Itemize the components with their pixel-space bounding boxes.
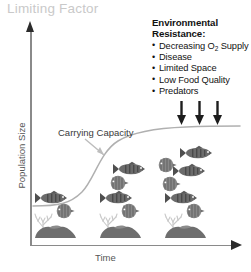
env-resistance-item: Low Food Quality	[152, 75, 251, 86]
reef-group-2	[100, 191, 141, 238]
carrying-capacity-label: Carrying Capacity	[58, 127, 134, 138]
x-axis-arrowhead-icon	[231, 240, 242, 250]
fish-upper-4	[163, 177, 181, 192]
fish-upper-3	[173, 164, 205, 176]
y-axis-label: Population Size	[16, 111, 27, 201]
x-axis-label: Time	[95, 252, 116, 263]
pressure-arrow-1	[177, 101, 186, 125]
pressure-arrow-2	[195, 101, 204, 125]
y-axis-line	[30, 30, 32, 246]
fish-upper-5	[113, 162, 145, 174]
page-title: Limiting Factor	[7, 1, 99, 16]
pressure-arrow-3	[213, 101, 222, 125]
fish-upper-2	[159, 158, 177, 173]
x-axis-line	[30, 245, 233, 247]
fish-upper-6	[111, 176, 129, 191]
subscript: 2	[215, 45, 219, 52]
limiting-factor-diagram: Limiting Factor Population Size Time Car…	[0, 0, 251, 272]
env-resistance-item: Limited Space	[152, 63, 251, 74]
env-resistance-item: Predators	[152, 86, 251, 97]
env-heading-line-1: Environmental	[152, 17, 218, 28]
env-heading-line-2: Resistance:	[152, 28, 205, 39]
reef-group-3	[165, 191, 206, 238]
environmental-resistance-list: Decreasing O2 SupplyDiseaseLimited Space…	[152, 41, 251, 97]
reef-group-1	[35, 191, 76, 238]
environmental-resistance-heading: Environmental Resistance:	[152, 17, 251, 40]
carrying-capacity-arrow-icon	[85, 139, 104, 155]
env-resistance-item: Disease	[152, 52, 251, 63]
environmental-resistance-callout: Environmental Resistance: Decreasing O2 …	[152, 17, 251, 97]
env-resistance-item: Decreasing O2 Supply	[152, 41, 251, 52]
fish-upper-1	[180, 146, 212, 158]
y-axis-arrowhead-icon	[26, 21, 34, 32]
